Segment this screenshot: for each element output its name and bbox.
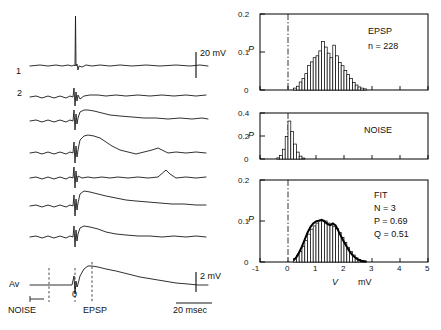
x-tick-3: 3 (369, 264, 373, 273)
marker-label-zero: 0 (72, 289, 77, 299)
noise-ylabel: P (248, 130, 254, 140)
scale-label-20mv: 20 mV (200, 48, 226, 58)
x-tick-1: 1 (313, 264, 317, 273)
marker-label-epsp: EPSP (83, 305, 107, 315)
figure-root: 1 2 Av 20 mV 2 mV 20 msec NOISE 0 EPSP (0, 0, 441, 330)
fit-histogram-svg (232, 174, 441, 294)
fit-ytick-0: 0 (244, 258, 248, 267)
scale-label-2mv: 2 mV (200, 271, 221, 281)
histograms-panel: 0 0.1 0.2 P EPSP n = 228 (232, 0, 441, 330)
fit-ylabel: P (248, 214, 254, 224)
marker-label-noise: NOISE (8, 305, 36, 315)
noise-bars (277, 121, 305, 159)
noise-ytick-0: 0 (244, 155, 248, 164)
traces-panel: 1 2 Av 20 mV 2 mV 20 msec NOISE 0 EPSP (0, 0, 232, 330)
noise-ytick-2: 0.4 (238, 109, 249, 118)
epsp-histogram: 0 0.1 0.2 P EPSP n = 228 (232, 8, 441, 104)
fit-title: FIT (374, 190, 388, 200)
x-tick-4: 4 (397, 264, 401, 273)
x-axis-unit: mV (358, 277, 372, 287)
trace-label-1: 1 (16, 66, 21, 76)
epsp-n-label: n = 228 (368, 41, 398, 51)
epsp-ytick-0: 0 (244, 86, 248, 95)
epsp-title: EPSP (368, 26, 392, 36)
traces-svg (0, 0, 232, 330)
trace-label-av: Av (9, 279, 19, 289)
epsp-ylabel: P (248, 44, 254, 54)
epsp-bars (294, 41, 367, 90)
scale-label-20msec: 20 msec (173, 305, 207, 315)
fit-q-label: Q = 0.51 (374, 229, 409, 239)
fit-p-label: P = 0.69 (374, 216, 408, 226)
fit-n-label: N = 3 (374, 203, 396, 213)
noise-histogram-svg (232, 108, 441, 170)
noise-title: NOISE (364, 125, 392, 135)
fit-ytick-2: 0.2 (238, 176, 249, 185)
x-tick-0: 0 (285, 264, 289, 273)
x-tick-2: 2 (341, 264, 345, 273)
noise-histogram: 0 0.2 0.4 P NOISE (232, 108, 441, 170)
x-tick-5: 5 (425, 264, 429, 273)
fit-histogram: 0 0.1 0.2 P FIT N = 3 P = 0.69 Q = 0.51 … (232, 174, 441, 294)
trace-label-2: 2 (17, 88, 22, 98)
x-tick--1: -1 (252, 264, 259, 273)
x-axis-label: V (332, 277, 338, 287)
epsp-ytick-2: 0.2 (238, 10, 249, 19)
epsp-histogram-svg (232, 8, 441, 104)
